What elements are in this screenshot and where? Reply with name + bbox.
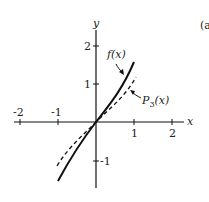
p3-label-rest: (x) [155,94,170,107]
tick-label-y-1: 1 [84,79,91,90]
f-label: f(x) [107,49,126,60]
tick-label-x-1: 1 [131,128,138,139]
tick-label-x-2: 2 [169,128,176,139]
x-axis-label: x [187,116,193,127]
p3-label: P3(x) [142,95,169,109]
figure: y x -2 -1 1 2 2 1 -1 f(x) P3(x) (a [0,0,209,202]
plot-area [0,0,209,202]
tick-label-y--1: -1 [100,156,111,167]
panel-label: (a [200,20,209,31]
y-axis-label: y [93,18,99,29]
tick-label-x--1: -1 [51,107,62,118]
tick-label-y-2: 2 [84,41,91,52]
tick-label-x--2: -2 [13,107,24,118]
